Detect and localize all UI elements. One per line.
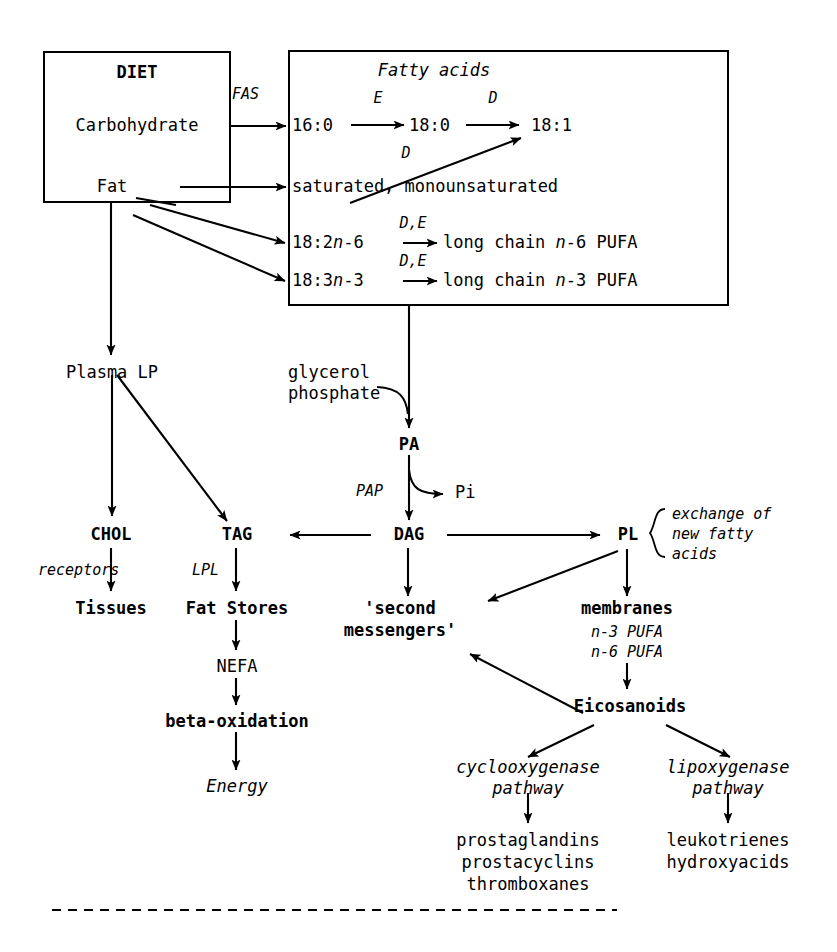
node-second-messengers-line2: messengers': [344, 620, 457, 641]
node-saturated-monounsaturated: saturated, monounsaturated: [292, 176, 558, 197]
brace-exchange: [650, 509, 665, 557]
diet-item-carbohydrate: Carbohydrate: [76, 115, 199, 136]
fatty-acids-heading: Fatty acids: [378, 60, 491, 81]
arrow-pl-to-second-messengers: [488, 551, 618, 601]
node-180: 18:0: [409, 115, 450, 136]
node-lox-line2: pathway: [692, 778, 764, 799]
node-181: 18:1: [531, 115, 572, 136]
arrow-plasma-lp-to-tag: [117, 375, 227, 521]
enzyme-e-label: E: [373, 88, 382, 109]
exchange-note-line1: exchange of: [672, 504, 771, 525]
arrow-eicosanoids-to-cox: [528, 725, 594, 757]
node-plasma-lp: Plasma LP: [66, 362, 158, 383]
node-tissues: Tissues: [75, 598, 147, 619]
node-lc-n6-pufa: long chain n-6 PUFA: [443, 232, 638, 253]
arrow-pap-to-pi: [409, 470, 443, 494]
diet-item-fat: Fat: [97, 176, 128, 197]
diet-heading: DIET: [117, 62, 158, 83]
node-membranes-n6: n-6 PUFA: [591, 642, 663, 663]
arrow-fat-to-182n6: [150, 205, 285, 243]
node-chol: CHOL: [91, 524, 132, 545]
enzyme-de-n6-label: D,E: [399, 213, 426, 234]
node-cox-product-3: thromboxanes: [467, 874, 590, 895]
node-lc-n3-pufa: long chain n-3 PUFA: [443, 270, 638, 291]
pathway-diagram: DIET Carbohydrate Fat FAS Fatty acids E …: [0, 0, 837, 952]
node-cox-line1: cyclooxygenase: [456, 757, 599, 778]
node-pa: PA: [399, 434, 419, 455]
node-cox-line2: pathway: [492, 778, 564, 799]
enzyme-d-label: D: [488, 88, 497, 109]
node-beta-oxidation: beta-oxidation: [165, 711, 308, 732]
node-pi: Pi: [455, 482, 475, 503]
node-glycerol-phosphate-line1: glycerol: [288, 362, 370, 383]
node-182n6: 18:2n-6: [292, 232, 364, 253]
node-membranes-n3: n-3 PUFA: [591, 622, 663, 643]
node-lox-line1: lipoxygenase: [667, 757, 790, 778]
fat-branch-stub: [136, 198, 176, 205]
node-tag: TAG: [222, 524, 253, 545]
enzyme-fas-label: FAS: [232, 84, 259, 105]
connector-layer: [0, 0, 837, 952]
arrow-eicosanoids-to-lox: [666, 725, 730, 757]
node-nefa: NEFA: [217, 656, 258, 677]
node-pl: PL: [618, 524, 638, 545]
node-lox-product-2: hydroxyacids: [667, 852, 790, 873]
arrow-fat-to-183n3: [133, 215, 285, 281]
arrow-eicosanoids-to-second-messengers: [470, 654, 583, 713]
enzyme-pap-label: PAP: [356, 481, 383, 502]
node-energy: Energy: [206, 776, 267, 797]
node-dag: DAG: [394, 524, 425, 545]
node-160: 16:0: [292, 115, 333, 136]
enzyme-lpl-label: LPL: [192, 560, 219, 581]
node-eicosanoids: Eicosanoids: [574, 696, 687, 717]
enzyme-d2-label: D: [401, 143, 410, 164]
node-cox-product-1: prostaglandins: [456, 830, 599, 851]
node-183n3: 18:3n-3: [292, 270, 364, 291]
node-lox-product-1: leukotrienes: [667, 830, 790, 851]
exchange-note-line2: new fatty: [672, 524, 753, 545]
node-glycerol-phosphate-line2: phosphate: [288, 383, 380, 404]
enzyme-receptors-label: receptors: [38, 560, 119, 581]
curve-glycerol-phosphate: [377, 387, 408, 414]
node-cox-product-2: prostacyclins: [461, 852, 594, 873]
node-membranes: membranes: [581, 598, 673, 619]
node-second-messengers-line1: 'second: [364, 598, 436, 619]
node-fat-stores: Fat Stores: [186, 598, 288, 619]
exchange-note-line3: acids: [672, 544, 717, 565]
enzyme-de-n3-label: D,E: [399, 251, 426, 272]
